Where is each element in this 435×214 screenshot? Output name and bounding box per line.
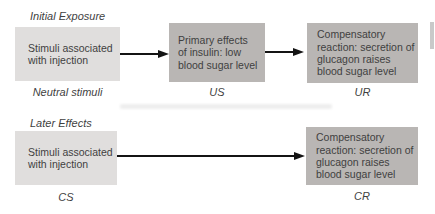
- right-arrow-us-to-ur: [265, 51, 293, 53]
- box-cs-text: Stimuli associated with injection: [28, 146, 113, 171]
- box-us: Primary effects of insulin: low blood su…: [169, 23, 265, 82]
- caption-cr: CR: [306, 190, 418, 202]
- page-edge-artifact: [430, 22, 434, 49]
- box-neutral-stimuli-text: Stimuli associated with injection: [28, 42, 113, 67]
- box-cs: Stimuli associated with injection: [15, 131, 117, 185]
- print-bleed-artifact: [120, 104, 332, 109]
- box-ur-text: Compensatory reaction: secretion of gluc…: [317, 28, 414, 77]
- box-neutral-stimuli: Stimuli associated with injection: [15, 27, 120, 81]
- box-us-text: Primary effects of insulin: low blood su…: [178, 34, 257, 71]
- right-arrow-cs-to-cr: [117, 155, 294, 157]
- box-cr: Compensatory reaction: secretion of gluc…: [306, 127, 418, 185]
- box-cr-text: Compensatory reaction: secretion of gluc…: [316, 131, 413, 180]
- section-label-initial-exposure: Initial Exposure: [30, 10, 105, 22]
- section-label-later-effects: Later Effects: [30, 117, 92, 129]
- right-arrow-stimuli-to-us: [120, 53, 158, 55]
- caption-ur: UR: [307, 86, 418, 98]
- conditioning-diagram: Initial Exposure Stimuli associated with…: [0, 0, 435, 214]
- caption-neutral-stimuli: Neutral stimuli: [15, 86, 120, 98]
- caption-cs: CS: [15, 191, 117, 203]
- box-ur: Compensatory reaction: secretion of gluc…: [307, 23, 418, 83]
- caption-us: US: [169, 86, 265, 98]
